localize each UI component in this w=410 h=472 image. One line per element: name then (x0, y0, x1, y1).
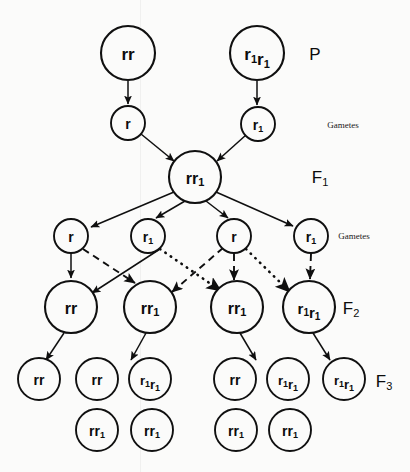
genotype-node-fg-2[interactable]: r1 (131, 219, 165, 253)
genotype-label: r (231, 229, 237, 245)
genotype-node-p-2[interactable]: r1r1 (230, 26, 284, 80)
genotype-node-p-1[interactable]: rr (101, 26, 155, 80)
genotype-node-f3-2[interactable]: rr (76, 358, 118, 400)
gametes-label-gametes-f1: Gametes (338, 231, 370, 241)
genotype-node-f3-5[interactable]: r1r1 (267, 358, 309, 400)
generation-label-F3: F3 (376, 372, 393, 393)
edge-e-fg4-f2-4 (310, 254, 311, 279)
edge-e-fg3-f2-2 (172, 248, 223, 292)
genotype-label: r (68, 229, 74, 245)
edge-e-f1-fg3 (206, 201, 228, 218)
edge-e-f2-1-f3-1 (46, 333, 64, 360)
edge-e-f1-fg1 (91, 192, 174, 227)
genotype-label: rr (65, 299, 77, 316)
f3-row-lower: rr1rr1rr1rr1 (76, 409, 311, 451)
edge-e-pg2-f1 (217, 135, 246, 161)
genotype-node-pg-2[interactable]: r1 (241, 107, 275, 141)
pedigree-svg-canvas: rrr1r1rr1rr1rr1rr1rrrr1rr1r1r1rrrrr1r1rr… (0, 0, 410, 472)
genotype-node-f3-7[interactable]: rr1 (76, 409, 118, 451)
generation-label-F2: F2 (343, 299, 360, 320)
genotype-node-fg-4[interactable]: r1 (294, 219, 328, 253)
genotype-label: r (125, 116, 131, 132)
genotype-node-f3-8[interactable]: rr1 (131, 409, 173, 451)
edge-e-f1-fg2 (156, 201, 185, 218)
genotype-node-f2-3[interactable]: rr1 (211, 281, 263, 333)
genotype-node-f2-4[interactable]: r1r1 (283, 281, 335, 333)
f2-row: rrrr1rr1r1r1 (45, 281, 335, 333)
edge-e-fg2-f2-3 (160, 249, 221, 291)
f3-row-upper: rrrrr1r1rrr1r1r1r1 (18, 358, 365, 400)
genotype-node-pg-1[interactable]: r (111, 106, 145, 140)
p-gametes-row: rr1 (111, 106, 275, 141)
genotype-label: rr (92, 372, 103, 388)
generation-label-P: P (309, 45, 320, 64)
f1-row: rr1 (169, 151, 221, 203)
genotype-node-f2-1[interactable]: rr (45, 281, 97, 333)
genotype-node-fg-3[interactable]: r (217, 219, 251, 253)
edge-e-f2-4-f3-6 (313, 333, 330, 360)
genotype-node-f3-4[interactable]: rr (214, 358, 256, 400)
genetics-pedigree-diagram: rrr1r1rr1rr1rr1rr1rrrr1rr1r1r1rrrrr1r1rr… (0, 0, 410, 472)
genotype-node-f1-1[interactable]: rr1 (169, 151, 221, 203)
nodes-layer: rrr1r1rr1rr1rr1rr1rrrr1rr1r1r1rrrrr1r1rr… (18, 26, 365, 451)
genotype-node-f2-2[interactable]: rr1 (124, 281, 176, 333)
genotype-label: rr (34, 372, 45, 388)
edge-e-f2-3-f3-4 (240, 333, 256, 360)
genotype-node-fg-1[interactable]: r (54, 219, 88, 253)
genotype-node-f3-6[interactable]: r1r1 (323, 358, 365, 400)
parental-row: rrr1r1 (101, 26, 284, 80)
genotype-node-f3-1[interactable]: rr (18, 358, 60, 400)
edge-e-pg1-f1 (141, 134, 174, 161)
genotype-node-f3-10[interactable]: rr1 (269, 409, 311, 451)
edge-e-fg1-f2-2 (83, 249, 135, 283)
genotype-node-f3-3[interactable]: r1r1 (129, 358, 171, 400)
labels-layer: PF1F2F3GametesGametes (309, 45, 392, 393)
generation-label-F1: F1 (312, 168, 329, 189)
edge-e-f2-2-f3-3 (131, 333, 146, 360)
genotype-label: rr (121, 44, 135, 63)
genotype-label: rr (230, 372, 241, 388)
gametes-label-gametes-p: Gametes (327, 120, 359, 130)
genotype-node-f3-9[interactable]: rr1 (215, 409, 257, 451)
